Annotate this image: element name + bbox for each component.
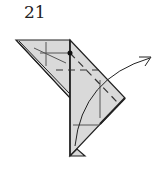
origami-diagram (0, 0, 164, 173)
pivot-dot (68, 51, 73, 56)
main-body (70, 40, 125, 156)
left-flap (16, 40, 70, 98)
